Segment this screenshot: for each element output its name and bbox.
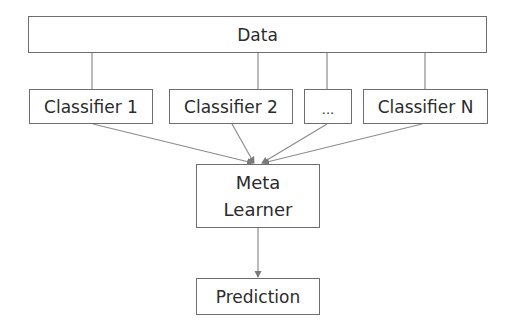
meta-learner-label-line2: Learner (224, 196, 293, 223)
classifier-n-node: Classifier N (363, 89, 488, 124)
meta-learner-label-line1: Meta (236, 169, 281, 196)
prediction-node: Prediction (196, 278, 320, 315)
classifier-2-node: Classifier 2 (169, 89, 293, 124)
arrow-classifier-2-meta (232, 124, 254, 163)
data-label: Data (237, 24, 278, 46)
arrow-classifier-1-meta (93, 124, 253, 163)
prediction-label: Prediction (216, 286, 300, 308)
classifier-2-label: Classifier 2 (184, 96, 278, 118)
ellipsis-label: ... (322, 99, 334, 121)
classifier-1-label: Classifier 1 (44, 96, 138, 118)
data-node: Data (28, 16, 487, 53)
classifier-n-label: Classifier N (378, 96, 474, 118)
arrow-ellipsis-meta (262, 124, 327, 163)
arrow-classifier-n-meta (263, 124, 422, 163)
ellipsis-node: ... (304, 89, 352, 124)
meta-learner-node: Meta Learner (196, 164, 320, 228)
classifier-1-node: Classifier 1 (29, 89, 153, 124)
